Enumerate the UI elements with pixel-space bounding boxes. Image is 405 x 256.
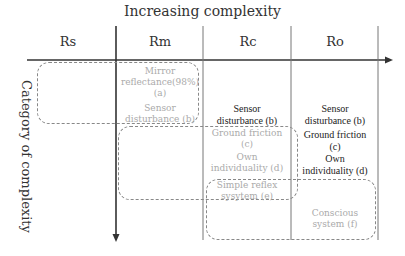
rc-simple-reflex-system: Simple reflex sysytem (e)	[204, 180, 290, 202]
ro-ground-friction: Ground friction (c)	[292, 129, 378, 153]
rm-sensor-disturbance: Sensor disturbance (b)	[118, 103, 202, 125]
rc-ground-friction: Ground friction (c)	[204, 128, 290, 150]
rc-own-individuality: Own individuality (d)	[204, 152, 290, 174]
ro-conscious-system: Conscious system (f)	[292, 208, 378, 230]
ro-own-individuality: Own individuality (d)	[292, 153, 378, 177]
rm-mirror-reflectance: Mirror reflectance(98%) (a)	[118, 66, 202, 99]
ro-sensor-disturbance: Sensor disturbance (b)	[292, 103, 378, 127]
y-axis-label: Category of complexity	[19, 80, 34, 233]
rc-sensor-disturbance: Sensor disturbance (b)	[204, 103, 290, 127]
